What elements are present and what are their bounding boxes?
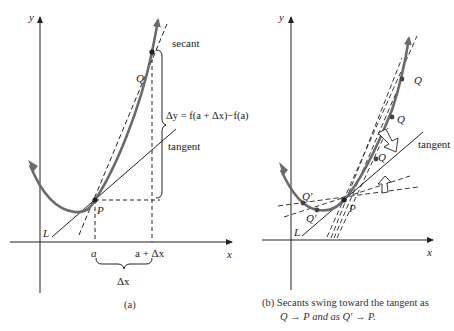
point-p-b <box>341 197 346 202</box>
tick-a: a <box>91 248 97 259</box>
line-l-label-b: L <box>294 227 300 238</box>
point-q-a <box>149 49 154 54</box>
tangent-label-a: tangent <box>168 141 200 152</box>
y-axis-label-a: y <box>29 12 34 23</box>
point-qprime1-label-b: Q' <box>302 191 312 202</box>
point-q1-label-b: Q <box>414 75 422 86</box>
caption-a: (a) <box>124 298 136 312</box>
panel-a <box>10 17 232 293</box>
point-p-label-b: P <box>349 203 356 214</box>
point-q-label-a: Q <box>136 73 144 84</box>
delta-x-brace <box>96 258 152 269</box>
x-axis-label-a: x <box>227 249 232 260</box>
secant-lines-b <box>278 36 418 238</box>
point-q2-b <box>390 115 395 120</box>
caption-b-line1: (b) Secants swing toward the tangent as <box>262 296 429 310</box>
tick-a-plus-dx: a + Δx <box>135 248 164 259</box>
rotation-arrow-upper <box>378 129 398 152</box>
point-qprime2-label-b: Q' <box>306 213 316 224</box>
tangent-label-b: tangent <box>418 139 450 150</box>
delta-x-label: Δx <box>117 276 130 287</box>
line-l-label-a: L <box>43 228 49 239</box>
rotation-arrow-lower <box>378 176 391 193</box>
y-axis-label-b: y <box>279 12 284 23</box>
point-p-label-a: P <box>97 205 104 216</box>
delta-y-brace <box>156 50 166 198</box>
point-q1-b <box>400 77 405 82</box>
curve-b <box>281 38 409 210</box>
point-q3-label-b: Q <box>378 152 386 163</box>
secant-label: secant <box>172 38 199 49</box>
panel-b <box>262 17 433 290</box>
point-q2-label-b: Q <box>397 114 405 125</box>
x-axis-label-b: x <box>427 247 432 258</box>
point-p-a <box>92 197 97 202</box>
curve-b-left-arrow <box>279 162 288 176</box>
tangent-secant-diagram <box>0 0 454 331</box>
caption-b-line2: Q → P and as Q' → P. <box>280 310 376 324</box>
tangent-line-a <box>52 129 176 237</box>
delta-y-formula: Δy = f(a + Δx)−f(a) <box>166 111 249 122</box>
curve-a <box>30 20 158 212</box>
tangent-line-b <box>302 132 423 236</box>
